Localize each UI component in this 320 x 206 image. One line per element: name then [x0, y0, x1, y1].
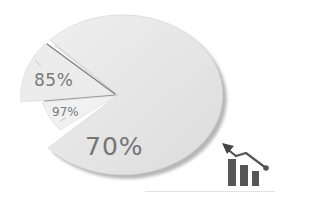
baseline-divider	[145, 191, 275, 192]
bar-chart-trend-arrow-icon	[220, 140, 276, 188]
slice-label-97: 97%	[52, 105, 79, 119]
slice-label-70: 70%	[85, 132, 144, 161]
slice-label-85: 85%	[34, 70, 73, 90]
